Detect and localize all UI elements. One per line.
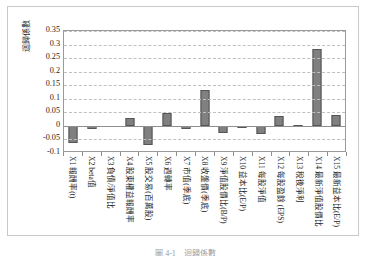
- y-tick-label: 0.2: [50, 67, 60, 75]
- bar: [256, 126, 265, 134]
- y-tick-mark: [63, 139, 64, 140]
- gridline: [64, 112, 345, 113]
- bar-cell: [214, 31, 233, 151]
- gridline: [64, 31, 345, 32]
- y-tick-mark: [63, 99, 64, 100]
- y-tick-label: 0.15: [46, 80, 60, 88]
- bar-cell: [158, 31, 177, 151]
- y-tick-label: 0.3: [50, 40, 60, 48]
- x-label-cell: X1 報酬率(t): [63, 154, 82, 238]
- bar: [163, 113, 172, 126]
- x-category-label: X4 股東權益報酬率: [125, 156, 133, 223]
- x-category-label: X3 負債/淨值比: [106, 156, 114, 209]
- y-tick-label: 0.35: [46, 26, 60, 34]
- bar: [219, 126, 228, 133]
- bar-cell: [176, 31, 195, 151]
- y-tick-mark: [63, 58, 64, 59]
- gridline: [64, 72, 345, 73]
- figure-caption: 圖 4-1 迴歸係數: [0, 247, 371, 256]
- y-tick-label: 0.1: [50, 94, 60, 102]
- bar: [144, 126, 153, 145]
- figure-container: 迴歸係數 0.350.30.250.20.150.10.050-0.05-0.1…: [0, 0, 371, 256]
- x-label-cell: X4 股東權益報酬率: [120, 154, 139, 238]
- y-tick-mark: [63, 72, 64, 73]
- bar-cell: [289, 31, 308, 151]
- gridline: [64, 45, 345, 46]
- bar-cell: [139, 31, 158, 151]
- y-tick-mark: [63, 85, 64, 86]
- x-label-cell: X9 淨值股價比(B/P): [214, 154, 233, 238]
- x-label-cell: X3 負債/淨值比: [101, 154, 120, 238]
- y-axis-tick-labels: 0.350.30.250.20.150.10.050-0.05-0.1: [33, 30, 60, 152]
- gridline: [64, 58, 345, 59]
- x-label-cell: X7 市值(季底): [176, 154, 195, 238]
- x-label-cell: X14 最新淨值股價比: [308, 154, 327, 238]
- gridline: [64, 85, 345, 86]
- x-label-cell: X5 股交易(百萬股): [138, 154, 157, 238]
- x-category-label: X7 市值(季底): [182, 156, 190, 204]
- x-tick-mark: [346, 152, 347, 156]
- x-category-label: X10 益本比(E/P): [238, 156, 246, 211]
- bar: [331, 115, 340, 126]
- x-axis-category-labels: X1 報酬率(t)X2 beta值X3 負債/淨值比X4 股東權益報酬率X5 股…: [63, 154, 346, 238]
- bar-cell: [270, 31, 289, 151]
- x-category-label: X1 報酬率(t): [68, 156, 76, 198]
- gridline: [64, 99, 345, 100]
- bar-cell: [195, 31, 214, 151]
- bar-series: [64, 31, 345, 151]
- bar-cell: [83, 31, 102, 151]
- bar-cell: [233, 31, 252, 151]
- x-label-cell: X13 稅後淨利: [289, 154, 308, 238]
- bar: [200, 90, 209, 126]
- x-category-label: X14 最新淨值股價比: [314, 156, 322, 227]
- bar-cell: [120, 31, 139, 151]
- bar: [312, 49, 321, 126]
- y-tick-label: 0: [56, 121, 60, 129]
- x-category-label: X8 收盤價(季底): [200, 156, 208, 212]
- x-category-label: X2 beta值: [87, 156, 95, 188]
- bar-cell: [251, 31, 270, 151]
- x-category-label: X15 最新益本比(E/P): [332, 156, 340, 227]
- y-tick-mark: [63, 45, 64, 46]
- x-label-cell: X11 每股淨值: [252, 154, 271, 238]
- y-tick-label: 0.05: [46, 107, 60, 115]
- gridline: [64, 139, 345, 140]
- x-category-label: X9 淨值股價比(B/P): [219, 156, 227, 224]
- y-tick-label: 0.25: [46, 53, 60, 61]
- x-label-cell: X2 beta值: [82, 154, 101, 238]
- x-category-label: X5 股交易(百萬股): [144, 156, 152, 220]
- x-label-cell: X10 益本比(E/P): [233, 154, 252, 238]
- bar-cell: [308, 31, 327, 151]
- x-label-cell: X15 最新益本比(E/P): [327, 154, 346, 238]
- bar-cell: [64, 31, 83, 151]
- x-label-cell: X12 每股盈餘 (EPS): [270, 154, 289, 238]
- x-label-cell: X6 週轉率: [157, 154, 176, 238]
- y-tick-mark: [63, 126, 64, 127]
- x-label-cell: X8 收盤價(季底): [195, 154, 214, 238]
- bar-cell: [101, 31, 120, 151]
- x-category-label: X13 稅後淨利: [295, 156, 303, 203]
- y-tick-label: -0.05: [43, 134, 60, 142]
- bar: [125, 118, 134, 126]
- y-tick-label: -0.1: [47, 148, 60, 156]
- zero-baseline: [64, 126, 345, 127]
- bar-cell: [326, 31, 345, 151]
- y-axis-title: 迴歸係數: [22, 0, 32, 52]
- y-tick-mark: [63, 112, 64, 113]
- x-category-label: X12 每股盈餘 (EPS): [276, 156, 284, 223]
- bar: [69, 126, 78, 144]
- plot-area: [63, 30, 346, 152]
- x-category-label: X11 每股淨值: [257, 156, 265, 203]
- y-tick-mark: [63, 31, 64, 32]
- x-category-label: X6 週轉率: [163, 156, 171, 191]
- bar: [275, 116, 284, 126]
